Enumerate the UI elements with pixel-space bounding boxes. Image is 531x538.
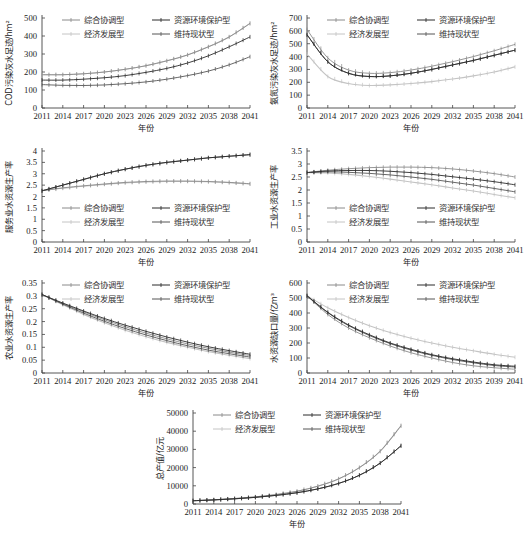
x-tick-label: 2023 <box>382 376 399 386</box>
x-tick-label: 2026 <box>288 507 306 517</box>
legend-label: 综合协调型 <box>84 15 124 25</box>
y-tick-label: 200 <box>24 67 37 77</box>
legend-item-s3: 经济发展型 <box>327 294 389 304</box>
x-tick-label: 2011 <box>299 245 316 255</box>
x-tick-label: 2023 <box>117 111 134 121</box>
axes: 00.050.10.150.20.250.30.3520112014201720… <box>22 278 259 386</box>
legend-item-s4: 维持现状型 <box>152 294 214 304</box>
legend-label: 资源环境保护型 <box>439 280 495 290</box>
y-tick-label: 4 <box>33 146 38 156</box>
series-s2 <box>42 293 250 357</box>
y-tick-label: 600 <box>289 278 302 288</box>
series-s2 <box>193 444 401 503</box>
y-tick-label: 10000 <box>167 481 188 491</box>
legend-item-s2: 资源环境保护型 <box>417 15 495 25</box>
y-axis-title: COD污染灰水足迹/hm² <box>4 20 14 106</box>
x-tick-label: 2029 <box>158 245 175 255</box>
y-tick-label: 0.1 <box>26 342 37 352</box>
series-s1 <box>307 294 515 372</box>
x-tick-label: 2035 <box>465 245 482 255</box>
x-tick-label: 2041 <box>241 245 258 255</box>
x-tick-label: 2038 <box>221 111 238 121</box>
legend-item-s1: 综合协调型 <box>327 203 389 213</box>
y-tick-label: 1.5 <box>291 198 302 208</box>
x-tick-label: 2029 <box>158 376 175 386</box>
x-tick-label: 2041 <box>506 376 523 386</box>
y-tick-label: 50000 <box>167 408 188 418</box>
legend-item-s1: 综合协调型 <box>62 280 124 290</box>
legend-label: 综合协调型 <box>349 15 389 25</box>
legend-item-s2: 资源环境保护型 <box>152 203 230 213</box>
legend: 综合协调型资源环境保护型经济发展型维持现状型 <box>213 410 381 434</box>
x-tick-label: 2039 <box>486 376 503 386</box>
legend-label: 综合协调型 <box>349 203 389 213</box>
legend-item-s3: 经济发展型 <box>327 29 389 39</box>
y-tick-label: 0.05 <box>22 355 37 365</box>
x-tick-label: 2017 <box>226 507 244 517</box>
x-tick-label: 2023 <box>382 111 399 121</box>
x-tick-label: 2020 <box>96 245 113 255</box>
x-tick-label: 2035 <box>465 376 482 386</box>
x-tick-label: 2017 <box>75 245 93 255</box>
y-tick-label: 2.5 <box>291 172 302 182</box>
x-tick-label: 2032 <box>444 111 461 121</box>
x-tick-label: 2020 <box>96 111 113 121</box>
x-tick-label: 2032 <box>330 507 347 517</box>
series-s2 <box>307 33 515 79</box>
series-s1 <box>307 28 515 76</box>
x-tick-label: 2026 <box>137 111 155 121</box>
legend-item-s1: 综合协调型 <box>62 203 124 213</box>
x-tick-label: 2029 <box>423 111 440 121</box>
legend-item-s2: 资源环境保护型 <box>152 280 230 290</box>
cod-grey-water-chart: 0100200300400500201120142017202020232026… <box>0 0 262 136</box>
x-tick-label: 2023 <box>382 245 399 255</box>
y-tick-label: 0.15 <box>22 329 37 339</box>
plot-area <box>307 165 515 200</box>
legend: 综合协调型资源环境保护型经济发展型维持现状型 <box>327 15 495 39</box>
x-tick-label: 2029 <box>423 376 440 386</box>
legend-label: 综合协调型 <box>84 203 124 213</box>
y-tick-label: 500 <box>289 39 302 49</box>
legend-label: 维持现状型 <box>174 217 214 227</box>
agriculture-water-productivity-chart: 00.050.10.150.20.250.30.3520112014201720… <box>0 272 262 402</box>
y-axis-title: 水资源缺口量/亿m³ <box>269 293 279 363</box>
y-tick-label: 700 <box>289 13 302 23</box>
y-axis-title: 服务业水资源生产率 <box>4 161 14 233</box>
plot-area <box>307 294 515 372</box>
legend-item-s4: 维持现状型 <box>417 217 479 227</box>
legend-label: 经济发展型 <box>84 294 124 304</box>
legend-item-s1: 综合协调型 <box>327 15 389 25</box>
y-tick-label: 500 <box>24 13 37 23</box>
x-tick-label: 2017 <box>75 111 93 121</box>
legend-label: 维持现状型 <box>439 294 479 304</box>
x-tick-label: 2014 <box>54 376 72 386</box>
legend-item-s4: 维持现状型 <box>417 29 479 39</box>
x-tick-label: 2017 <box>75 376 93 386</box>
x-tick-label: 2035 <box>351 507 368 517</box>
axes: 0100200300400500600700201120142017202020… <box>289 13 523 121</box>
legend: 综合协调型资源环境保护型经济发展型维持现状型 <box>327 203 495 227</box>
x-tick-label: 2026 <box>137 376 155 386</box>
x-tick-label: 2023 <box>117 376 134 386</box>
y-tick-label: 100 <box>289 90 302 100</box>
x-tick-label: 2011 <box>299 111 316 121</box>
plot-area <box>42 293 250 361</box>
plot-area <box>42 153 250 193</box>
y-tick-label: 100 <box>289 353 302 363</box>
x-tick-label: 2032 <box>179 111 196 121</box>
legend-label: 资源环境保护型 <box>439 15 495 25</box>
y-tick-label: 100 <box>24 85 37 95</box>
legend-label: 维持现状型 <box>174 294 214 304</box>
x-tick-label: 2026 <box>402 376 420 386</box>
x-tick-label: 2038 <box>221 376 238 386</box>
x-tick-label: 2014 <box>205 507 223 517</box>
x-tick-label: 2017 <box>340 111 358 121</box>
legend-item-s4: 维持现状型 <box>152 217 214 227</box>
legend-item-s3: 经济发展型 <box>327 217 389 227</box>
x-tick-label: 2011 <box>34 111 51 121</box>
total-output-chart: 0100002000030000400005000020112014201720… <box>140 404 410 538</box>
legend-label: 综合协调型 <box>349 280 389 290</box>
x-tick-label: 2041 <box>506 245 523 255</box>
y-tick-label: 200 <box>289 338 302 348</box>
legend-label: 资源环境保护型 <box>439 203 495 213</box>
